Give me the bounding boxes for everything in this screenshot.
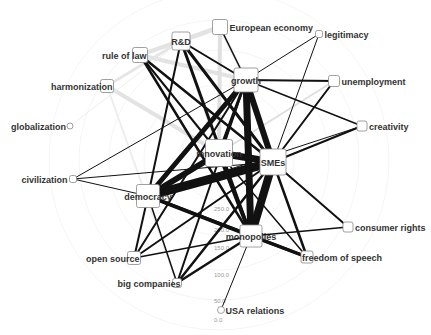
node-label: USA relations — [226, 306, 285, 316]
node-consumer_rights[interactable]: consumer rights — [343, 222, 426, 233]
node-civilization[interactable]: civilization — [21, 175, 76, 185]
node-label: innovation — [196, 149, 242, 159]
network-graph-canvas: 0.050.0100.0150.0200.0250.0 R&DEuropean … — [0, 0, 431, 335]
node-open_source[interactable]: open source — [86, 252, 141, 265]
node-label: big companies — [117, 279, 180, 289]
node-marker[interactable] — [70, 176, 77, 183]
node-marker[interactable] — [316, 31, 323, 38]
node-label: creativity — [369, 122, 409, 132]
node-rule_of_law[interactable]: rule of law — [102, 48, 148, 63]
node-globalization[interactable]: globalization — [11, 122, 73, 132]
node-marker[interactable] — [329, 76, 340, 87]
edges — [70, 27, 362, 310]
node-label: consumer rights — [355, 223, 426, 233]
node-label: freedom of speech — [302, 253, 382, 263]
node-rd[interactable]: R&D — [171, 32, 191, 50]
node-label: open source — [86, 254, 140, 264]
node-marker[interactable] — [357, 121, 367, 131]
scale-tick-label: 250.0 — [214, 206, 230, 212]
node-harmonization[interactable]: harmonization — [51, 80, 114, 93]
node-label: harmonization — [51, 82, 113, 92]
node-big_companies[interactable]: big companies — [117, 279, 181, 290]
node-freedom_of_speech[interactable]: freedom of speech — [301, 251, 382, 263]
node-label: SMEs — [261, 158, 286, 168]
node-unemployment[interactable]: unemployment — [329, 76, 406, 88]
node-marker[interactable] — [213, 20, 228, 35]
node-label: unemployment — [342, 77, 406, 87]
node-label: European economy — [230, 23, 314, 33]
node-label: rule of law — [102, 51, 148, 61]
node-label: legitimacy — [325, 30, 369, 40]
node-legitimacy[interactable]: legitimacy — [316, 30, 369, 40]
node-usa_relations[interactable]: USA relations — [218, 306, 285, 316]
node-growth[interactable]: growth — [231, 68, 261, 92]
node-label: growth — [231, 76, 261, 86]
network-graph: 0.050.0100.0150.0200.0250.0 R&DEuropean … — [0, 0, 431, 335]
node-label: R&D — [171, 37, 191, 47]
node-label: democracy — [124, 192, 172, 202]
node-label: civilization — [21, 175, 67, 185]
node-marker[interactable] — [218, 307, 225, 314]
edge-growth-monopolies — [246, 80, 251, 236]
node-smes[interactable]: SMEs — [260, 149, 286, 175]
node-european_economy[interactable]: European economy — [213, 20, 314, 35]
node-marker[interactable] — [343, 222, 353, 232]
node-marker[interactable] — [67, 123, 73, 129]
node-label: monopolies — [226, 232, 277, 242]
node-label: globalization — [11, 122, 66, 132]
node-creativity[interactable]: creativity — [357, 121, 409, 132]
scale-tick-label: 100.0 — [214, 272, 230, 278]
scale-tick-label: 0.0 — [214, 317, 223, 323]
